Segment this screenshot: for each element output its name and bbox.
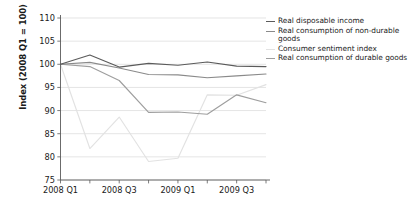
line-chart: Index (2008 Q1 = 100) 110105100959085807…: [0, 0, 410, 216]
legend-item[interactable]: Real consumption of durable goods: [266, 54, 408, 63]
legend: Real disposable incomeReal consumption o…: [266, 17, 408, 64]
series-line: [61, 64, 267, 114]
legend-item[interactable]: Consumer sentiment index: [266, 45, 408, 54]
legend-color-swatch-icon: [266, 27, 275, 36]
y-tick-label: 80: [45, 152, 55, 162]
x-tick-marks: [61, 180, 267, 183]
x-tick-label: 2009 Q3: [219, 185, 254, 195]
y-tick-label: 95: [45, 82, 55, 92]
y-tick-marks: [57, 18, 60, 180]
data-series: [61, 55, 267, 161]
x-tick-labels: 2008 Q12008 Q32009 Q12009 Q3: [43, 185, 254, 195]
y-tick-label: 105: [39, 36, 55, 46]
y-tick-label: 100: [39, 59, 55, 69]
y-tick-label: 75: [45, 175, 55, 185]
gridlines: [61, 18, 267, 180]
legend-item[interactable]: Real disposable income: [266, 17, 408, 26]
series-line: [61, 55, 267, 67]
x-tick-label: 2008 Q3: [102, 185, 137, 195]
y-tick-label: 85: [45, 129, 55, 139]
legend-item-label: Consumer sentiment index: [278, 45, 377, 54]
legend-item[interactable]: Real consumption of non-durable goods: [266, 27, 408, 44]
x-tick-label: 2008 Q1: [43, 185, 78, 195]
x-tick-label: 2009 Q1: [160, 185, 195, 195]
legend-color-swatch-icon: [266, 54, 275, 63]
y-tick-label: 110: [39, 13, 55, 23]
series-line: [61, 64, 267, 161]
legend-item-label: Real consumption of durable goods: [278, 54, 407, 63]
legend-color-swatch-icon: [266, 17, 275, 26]
legend-item-label: Real consumption of non-durable goods: [278, 27, 408, 44]
y-tick-labels: 1101051009590858075: [39, 13, 55, 185]
legend-item-label: Real disposable income: [278, 17, 364, 26]
legend-color-swatch-icon: [266, 45, 275, 54]
y-tick-label: 90: [45, 106, 55, 116]
